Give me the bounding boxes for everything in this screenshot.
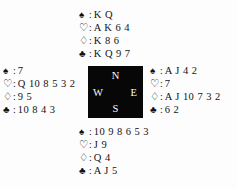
compass-box: N W E S [88, 66, 143, 118]
hand-east-diamonds: A J 10 7 3 2 [165, 90, 221, 103]
hand-west: ♠ : 7 ♡ : Q 10 8 5 3 2 ♢ : 9 5 ♣ : 10 8 … [3, 64, 75, 116]
hand-north-hearts: A K 6 4 [94, 21, 130, 34]
diamond-icon: ♢ [79, 34, 89, 47]
spade-icon: ♠ [79, 8, 89, 21]
hand-north-hearts-row: ♡ : A K 6 4 [79, 21, 130, 34]
hand-south: ♠ : 10 9 8 6 5 3 ♡ : J 9 ♢ : Q 4 ♣ : A J… [79, 125, 149, 177]
hand-south-spades-row: ♠ : 10 9 8 6 5 3 [79, 125, 149, 138]
hand-south-hearts: J 9 [94, 138, 107, 151]
club-icon: ♣ [79, 164, 89, 177]
hand-north-spades-row: ♠ : K Q [79, 8, 130, 21]
hand-north-clubs-row: ♣ : K Q 9 7 [79, 47, 130, 60]
club-icon: ♣ [79, 47, 89, 60]
hand-south-spades: 10 9 8 6 5 3 [94, 125, 149, 138]
hand-south-clubs: A J 5 [94, 164, 118, 177]
heart-icon: ♡ [79, 21, 89, 34]
hand-south-clubs-row: ♣ : A J 5 [79, 164, 149, 177]
diamond-icon: ♢ [79, 151, 89, 164]
hand-south-diamonds-row: ♢ : Q 4 [79, 151, 149, 164]
spade-icon: ♠ [150, 64, 160, 77]
hand-east-hearts-row: ♡ : 7 [150, 77, 221, 90]
compass-label-south: S [88, 103, 143, 114]
hand-west-spades: 7 [18, 64, 24, 77]
heart-icon: ♡ [79, 138, 89, 151]
hand-east: ♠ : A J 4 2 ♡ : 7 ♢ : A J 10 7 3 2 ♣ : 6… [150, 64, 221, 116]
hand-east-clubs-row: ♣ : 6 2 [150, 103, 221, 116]
compass-label-east: E [131, 87, 137, 98]
hand-west-clubs: 10 8 4 3 [18, 103, 56, 116]
hand-east-spades: A J 4 2 [165, 64, 198, 77]
hand-west-hearts: Q 10 8 5 3 2 [18, 77, 76, 90]
hand-north-spades: K Q [94, 8, 113, 21]
hand-north-diamonds-row: ♢ : K 8 6 [79, 34, 130, 47]
compass-label-north: N [88, 70, 143, 81]
hand-west-diamonds-row: ♢ : 9 5 [3, 90, 75, 103]
hand-west-clubs-row: ♣ : 10 8 4 3 [3, 103, 75, 116]
club-icon: ♣ [3, 103, 13, 116]
hand-east-clubs: 6 2 [165, 103, 179, 116]
hand-south-hearts-row: ♡ : J 9 [79, 138, 149, 151]
compass-label-west: W [93, 87, 103, 98]
hand-east-diamonds-row: ♢ : A J 10 7 3 2 [150, 90, 221, 103]
spade-icon: ♠ [3, 64, 13, 77]
hand-north-clubs: K Q 9 7 [94, 47, 131, 60]
bridge-deal-diagram: ♠ : K Q ♡ : A K 6 4 ♢ : K 8 6 ♣ : K Q 9 … [0, 0, 237, 188]
hand-north-diamonds: K 8 6 [94, 34, 120, 47]
spade-icon: ♠ [79, 125, 89, 138]
club-icon: ♣ [150, 103, 160, 116]
hand-west-hearts-row: ♡ : Q 10 8 5 3 2 [3, 77, 75, 90]
hand-east-spades-row: ♠ : A J 4 2 [150, 64, 221, 77]
diamond-icon: ♢ [150, 90, 160, 103]
hand-south-diamonds: Q 4 [94, 151, 111, 164]
heart-icon: ♡ [150, 77, 160, 90]
diamond-icon: ♢ [3, 90, 13, 103]
hand-west-diamonds: 9 5 [18, 90, 32, 103]
heart-icon: ♡ [3, 77, 13, 90]
hand-west-spades-row: ♠ : 7 [3, 64, 75, 77]
hand-east-hearts: 7 [165, 77, 171, 90]
hand-north: ♠ : K Q ♡ : A K 6 4 ♢ : K 8 6 ♣ : K Q 9 … [79, 8, 130, 60]
